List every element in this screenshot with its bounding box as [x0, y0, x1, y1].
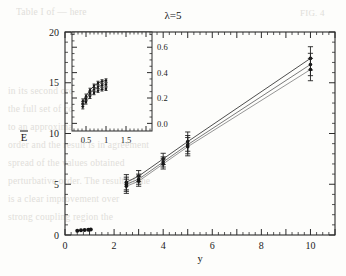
series-line: [126, 58, 310, 182]
y-tick-label: 20: [49, 27, 59, 38]
x-tick-label: 8: [259, 240, 264, 251]
plot-svg: λ=5 E y 024681005101520 0.511.50.00.20.4…: [0, 0, 346, 276]
y-tick-label: 15: [49, 77, 59, 88]
inset-x-tick-label: 0.5: [81, 135, 92, 145]
inset-x-tick-label: 1: [104, 135, 108, 145]
plot-title: λ=5: [164, 9, 182, 21]
inset-y-tick-label: 0.6: [157, 42, 168, 52]
inset-frame: [72, 32, 152, 131]
inset-x-tick-label: 1.5: [121, 135, 132, 145]
y-axis-label: E: [20, 131, 28, 143]
y-tick-label: 0: [54, 230, 59, 241]
figure-container: FIG. 4Table I of — herein its second ord…: [0, 0, 346, 276]
y-tick-label: 10: [49, 128, 59, 139]
x-tick-label: 4: [161, 240, 166, 251]
x-tick-label: 2: [112, 240, 117, 251]
inset-y-tick-label: 0.0: [157, 119, 168, 129]
series-line: [126, 64, 310, 184]
svg-text:E: E: [21, 132, 27, 143]
inset-plot: 0.511.50.00.20.40.6: [72, 32, 168, 145]
x-tick-label: 10: [305, 240, 315, 251]
x-axis-label: y: [197, 253, 203, 264]
x-tick-label: 6: [210, 240, 215, 251]
x-tick-label: 0: [63, 240, 68, 251]
inset-y-tick-label: 0.4: [157, 68, 168, 78]
inset-y-tick-label: 0.2: [157, 93, 168, 103]
y-tick-label: 5: [54, 179, 59, 190]
